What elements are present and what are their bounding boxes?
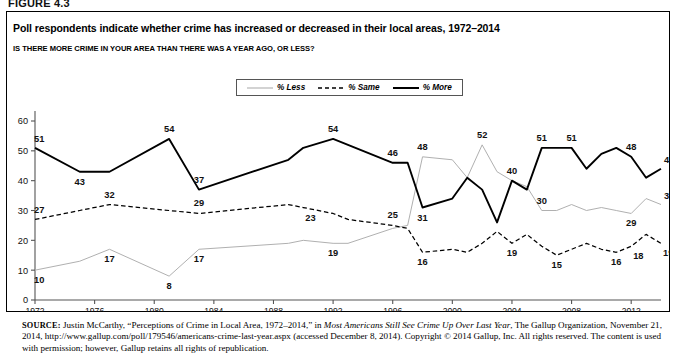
data-label: 48 [417, 142, 427, 152]
series-line-more [35, 139, 661, 223]
data-label: 44 [664, 155, 670, 165]
y-axis-tick-label: 0 [23, 295, 28, 305]
x-axis-tick-label: 2004 [502, 306, 521, 312]
data-label: 16 [417, 257, 427, 267]
series-line-same [35, 205, 661, 256]
data-label: 10 [34, 275, 44, 285]
data-label: 17 [104, 254, 114, 264]
series-line-less [35, 145, 661, 276]
data-label: 19 [328, 248, 338, 258]
x-axis-tick-label: 2000 [443, 306, 462, 312]
x-axis-tick-label: 1988 [264, 306, 283, 312]
source-italic-title: Most Americans Still See Crime Up Over L… [324, 320, 510, 330]
y-axis-tick-label: 50 [18, 146, 28, 156]
y-axis-tick-label: 30 [18, 206, 28, 216]
source-note: SOURCE: Justin McCarthy, “Perceptions of… [22, 320, 662, 354]
data-label: 29 [194, 198, 204, 208]
y-axis-tick-label: 10 [18, 266, 28, 276]
x-axis-tick-label: 1976 [85, 306, 104, 312]
data-label: 51 [34, 134, 44, 144]
figure-label: FIGURE 4.3 [8, 0, 70, 9]
data-label: 25 [388, 210, 398, 220]
chart-plot-area: 0102030405060197219761980198419881992199… [6, 11, 670, 312]
data-label: 23 [305, 213, 315, 223]
data-label: 19 [663, 248, 670, 258]
line-chart: 0102030405060197219761980198419881992199… [6, 11, 670, 312]
x-axis-tick-label: 1972 [25, 306, 44, 312]
data-label: 54 [328, 124, 339, 134]
data-label: 48 [626, 142, 636, 152]
x-axis-tick-label: 2008 [562, 306, 581, 312]
data-label: 31 [417, 213, 427, 223]
data-label: 30 [537, 196, 547, 206]
data-label: 40 [507, 166, 517, 176]
x-axis-tick-label: 1980 [145, 306, 164, 312]
data-label: 19 [507, 248, 517, 258]
data-label: 32 [664, 191, 670, 201]
x-axis-tick-label: 1996 [383, 306, 402, 312]
x-axis-tick-label: 1992 [324, 306, 343, 312]
x-axis-tick-label: 1984 [204, 306, 223, 312]
data-label: 29 [626, 218, 636, 228]
data-label: 46 [388, 148, 398, 158]
data-label: 43 [75, 177, 85, 187]
data-label: 17 [194, 254, 204, 264]
data-label: 8 [167, 281, 172, 291]
data-label: 51 [537, 133, 547, 143]
y-axis-tick-label: 60 [18, 116, 28, 126]
data-label: 32 [104, 190, 114, 200]
x-axis-tick-label: 2012 [622, 306, 641, 312]
data-label: 52 [477, 130, 487, 140]
data-label: 16 [611, 257, 621, 267]
data-label: 15 [551, 260, 561, 270]
y-axis-tick-label: 40 [18, 176, 28, 186]
data-label: 27 [34, 205, 44, 215]
data-label: 18 [633, 251, 643, 261]
y-axis-tick-label: 20 [18, 236, 28, 246]
source-prefix: SOURCE: [22, 321, 61, 330]
source-part1: Justin McCarthy, “Perceptions of Crime i… [61, 320, 324, 330]
data-label: 37 [194, 175, 204, 185]
data-label: 51 [566, 133, 576, 143]
data-label: 54 [164, 124, 175, 134]
